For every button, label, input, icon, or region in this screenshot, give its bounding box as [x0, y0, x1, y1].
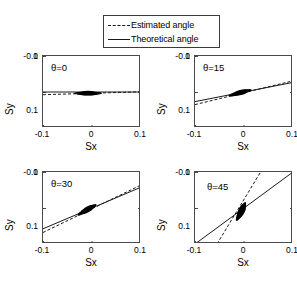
dashed-line-sample-icon	[107, 21, 131, 30]
xtick-mid-p3: 0	[78, 246, 104, 255]
xtick-mid-p1: 0	[78, 130, 104, 139]
ytick-top-p2: 0.1	[168, 106, 190, 115]
xtick-right-p1: 0.1	[126, 130, 154, 139]
ytick-top-p3: 0.1	[16, 222, 38, 231]
axis-title-y-p2: Sy	[157, 91, 167, 115]
ytick-bottom-p2: -0.1	[162, 52, 190, 61]
xtick-left-p2: -0.1	[180, 130, 208, 139]
xtick-right-p3: 0.1	[126, 246, 154, 255]
legend-entry-theoretical: Theoretical angle	[104, 32, 219, 46]
axis-title-x-p3: Sx	[66, 258, 116, 268]
xtick-left-p4: -0.1	[180, 246, 208, 255]
subplot-theta-0: 0.1 0 -0.1 Sy	[0, 52, 145, 164]
ytick-bottom-p1: -0.1	[10, 52, 38, 61]
subplot-theta-30: 0.1 0 -0.1 Sy	[0, 168, 145, 286]
xtick-mid-p4: 0	[230, 246, 256, 255]
axis-title-x-p1: Sx	[66, 142, 116, 152]
xtick-left-p1: -0.1	[28, 130, 56, 139]
xtick-mid-p2: 0	[230, 130, 256, 139]
legend: Estimated angle Theoretical angle	[103, 15, 220, 48]
solid-line-sample-icon	[107, 35, 131, 44]
xtick-right-p4: 0.1	[278, 246, 297, 255]
axis-title-y-p4: Sy	[157, 207, 167, 231]
axis-title-x-p2: Sx	[218, 142, 268, 152]
xtick-right-p2: 0.1	[278, 130, 297, 139]
panel-label-theta-0: θ=0	[51, 63, 67, 73]
axis-title-x-p4: Sx	[218, 258, 268, 268]
legend-entry-estimated: Estimated angle	[104, 18, 219, 32]
legend-label-estimated: Estimated angle	[131, 21, 194, 30]
ytick-top-p1: 0.1	[16, 106, 38, 115]
figure-canvas: Estimated angle Theoretical angle 0.1 0 …	[0, 0, 297, 295]
ytick-top-p4: 0.1	[168, 222, 190, 231]
ytick-bottom-p3: -0.1	[10, 168, 38, 177]
ytick-bottom-p4: -0.1	[162, 168, 190, 177]
axis-title-y-p1: Sy	[5, 91, 15, 115]
legend-label-theoretical: Theoretical angle	[131, 35, 198, 44]
data-cloud-core-p1	[79, 91, 97, 96]
subplot-theta-15: 0.1 0 -0.1 Sy	[152, 52, 297, 164]
subplot-theta-45: 0.1 0 -0.1 Sy	[152, 168, 297, 286]
panel-label-theta-15: θ=15	[203, 63, 224, 73]
axis-title-y-p3: Sy	[5, 207, 15, 231]
xtick-left-p3: -0.1	[28, 246, 56, 255]
panel-label-theta-30: θ=30	[51, 179, 72, 189]
panel-label-theta-45: θ=45	[207, 182, 228, 192]
